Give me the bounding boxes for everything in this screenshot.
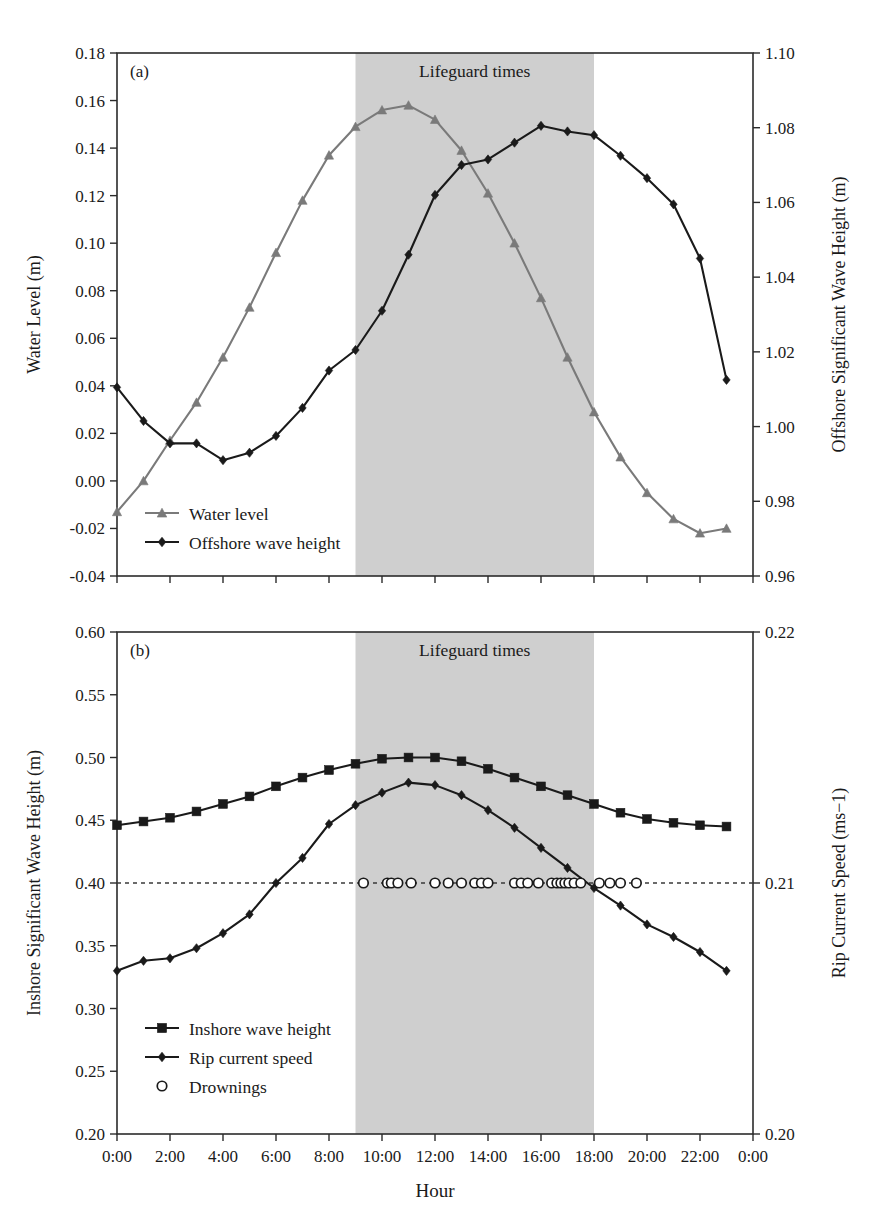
- marker-diamond: [723, 966, 730, 975]
- marker-square: [378, 754, 387, 763]
- right-tick-label: 1.04: [765, 268, 795, 287]
- left-tick-label: 0.60: [75, 623, 105, 642]
- left-axis-title-panel_a: Water Level (m): [24, 255, 45, 374]
- left-tick-label: 0.18: [75, 44, 105, 63]
- right-axis-title-panel_a: Offshore Significant Wave Height (m): [829, 177, 850, 453]
- left-tick-label: 0.14: [75, 139, 105, 158]
- x-tick-label: 4:00: [208, 1147, 238, 1166]
- left-tick-label: 0.10: [75, 234, 105, 253]
- x-tick-label: 0:00: [102, 1147, 132, 1166]
- marker-diamond: [696, 947, 703, 956]
- marker-open-circle: [406, 878, 416, 888]
- lifeguard-times-label: Lifeguard times: [419, 640, 530, 660]
- right-tick-label: 0.21: [765, 874, 795, 893]
- marker-square: [157, 1023, 166, 1032]
- marker-square: [298, 773, 307, 782]
- marker-diamond: [113, 966, 120, 975]
- left-tick-label: 0.45: [75, 811, 105, 830]
- x-tick-label: 12:00: [416, 1147, 455, 1166]
- marker-square: [484, 764, 493, 773]
- legend-panel_a: Water levelOffshore wave height: [145, 504, 340, 553]
- right-tick-label: 1.02: [765, 343, 795, 362]
- two-panel-time-series-figure: Lifeguard times(a)-0.04-0.020.000.020.04…: [0, 0, 881, 1224]
- marker-square: [272, 782, 281, 791]
- marker-triangle: [298, 196, 307, 205]
- marker-open-circle: [444, 878, 454, 888]
- marker-diamond: [193, 439, 200, 448]
- marker-square: [139, 817, 148, 826]
- legend-label: Drownings: [189, 1077, 267, 1097]
- right-tick-label: 1.06: [765, 193, 795, 212]
- left-tick-label: 0.50: [75, 749, 105, 768]
- legend-label: Rip current speed: [189, 1048, 313, 1068]
- marker-open-circle: [605, 878, 615, 888]
- right-tick-label: 0.22: [765, 623, 795, 642]
- panel-tag-panel_a: (a): [130, 62, 149, 81]
- marker-diamond: [617, 901, 624, 910]
- marker-open-circle: [157, 1081, 167, 1091]
- marker-open-circle: [359, 878, 369, 888]
- left-tick-label: 0.08: [75, 282, 105, 301]
- marker-square: [510, 773, 519, 782]
- marker-square: [457, 757, 466, 766]
- marker-open-circle: [576, 878, 586, 888]
- marker-diamond: [166, 954, 173, 963]
- marker-square: [696, 821, 705, 830]
- marker-diamond: [219, 929, 226, 938]
- x-axis-title: Hour: [415, 1180, 455, 1201]
- left-tick-label: 0.06: [75, 329, 105, 348]
- left-tick-label: -0.02: [70, 519, 105, 538]
- marker-open-circle: [430, 878, 440, 888]
- right-tick-label: 0.20: [765, 1125, 795, 1144]
- marker-open-circle: [632, 878, 642, 888]
- figure-canvas: Lifeguard times(a)-0.04-0.020.000.020.04…: [0, 0, 881, 1224]
- legend-label: Inshore wave height: [189, 1019, 331, 1039]
- legend-label: Offshore wave height: [189, 533, 340, 553]
- marker-open-circle: [393, 878, 403, 888]
- left-tick-label: 0.25: [75, 1062, 105, 1081]
- panel-tag-panel_b: (b): [130, 641, 150, 660]
- marker-triangle: [271, 248, 280, 257]
- x-tick-label: 18:00: [575, 1147, 614, 1166]
- marker-square: [351, 759, 360, 768]
- left-tick-label: 0.40: [75, 874, 105, 893]
- x-tick-label: 0:00: [738, 1147, 768, 1166]
- marker-square: [669, 818, 678, 827]
- marker-diamond: [670, 932, 677, 941]
- x-tick-label: 6:00: [261, 1147, 291, 1166]
- left-tick-label: 0.12: [75, 187, 105, 206]
- marker-square: [245, 792, 254, 801]
- marker-square: [325, 766, 334, 775]
- marker-diamond: [140, 956, 147, 965]
- left-tick-label: 0.04: [75, 377, 105, 396]
- x-tick-label: 14:00: [469, 1147, 508, 1166]
- marker-open-circle: [595, 878, 605, 888]
- marker-open-circle: [616, 878, 626, 888]
- x-tick-label: 2:00: [155, 1147, 185, 1166]
- marker-square: [219, 800, 228, 809]
- left-tick-label: 0.02: [75, 424, 105, 443]
- marker-square: [431, 753, 440, 762]
- right-tick-label: 0.98: [765, 492, 795, 511]
- marker-square: [537, 782, 546, 791]
- marker-square: [616, 808, 625, 817]
- marker-triangle: [192, 398, 201, 407]
- left-axis-title-panel_b: Inshore Significant Wave Height (m): [24, 750, 45, 1016]
- marker-open-circle: [457, 878, 467, 888]
- legend-panel_b: Inshore wave heightRip current speedDrow…: [145, 1019, 331, 1097]
- left-tick-label: 0.55: [75, 686, 105, 705]
- marker-square: [113, 821, 122, 830]
- right-tick-label: 1.10: [765, 44, 795, 63]
- lifeguard-times-band: [356, 53, 595, 576]
- marker-open-circle: [534, 878, 544, 888]
- marker-diamond: [219, 456, 226, 465]
- marker-square: [643, 815, 652, 824]
- x-tick-label: 20:00: [628, 1147, 667, 1166]
- x-tick-label: 8:00: [314, 1147, 344, 1166]
- marker-diamond: [158, 1052, 166, 1062]
- marker-square: [166, 813, 175, 822]
- marker-open-circle: [483, 878, 493, 888]
- marker-open-circle: [523, 878, 533, 888]
- left-tick-label: -0.04: [70, 567, 106, 586]
- plot-panel_a: Lifeguard times(a)-0.04-0.020.000.020.04…: [24, 44, 850, 586]
